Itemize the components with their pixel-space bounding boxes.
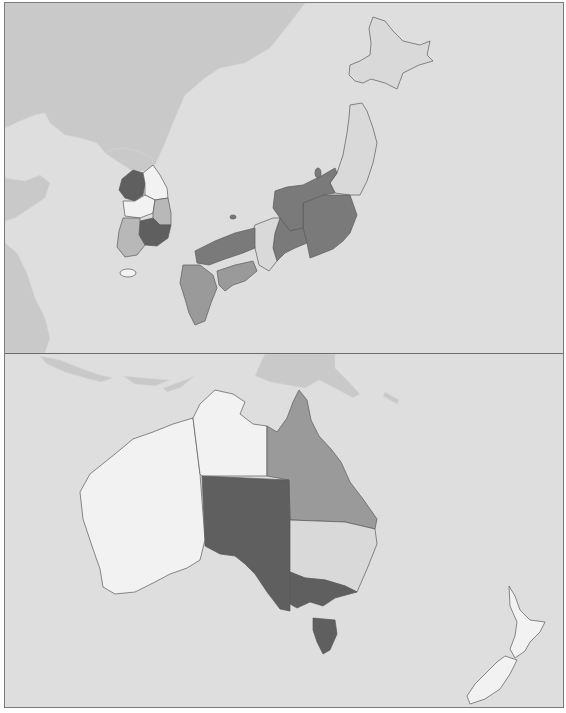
sado-island[interactable] — [315, 168, 321, 178]
jeju-island[interactable] — [120, 269, 136, 277]
map-frame — [4, 2, 564, 708]
oki-islands[interactable] — [230, 215, 236, 219]
map-panel-oceania[interactable] — [5, 354, 563, 707]
east-asia-map[interactable] — [5, 3, 563, 353]
oceania-map[interactable] — [5, 354, 563, 707]
map-panel-east-asia[interactable] — [5, 3, 563, 354]
